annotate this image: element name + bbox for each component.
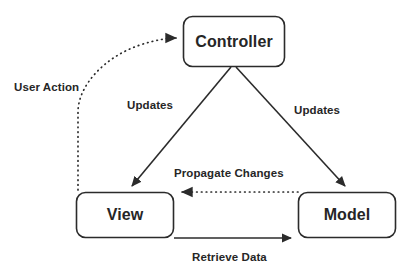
node-model xyxy=(299,193,396,238)
mvc-diagram: Controller View Model User Action Update… xyxy=(0,0,413,275)
edge-user-action xyxy=(78,38,176,190)
node-controller xyxy=(184,17,285,67)
edge-updates-model xyxy=(236,67,345,186)
node-view xyxy=(77,193,174,238)
edge-updates-view xyxy=(132,67,231,186)
diagram-canvas xyxy=(0,0,413,275)
